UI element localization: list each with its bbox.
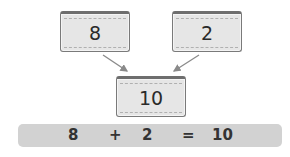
equation-result: 10 [212,126,233,144]
card-right: 2 [172,11,242,52]
card-left-value: 8 [61,14,129,51]
card-right-value: 2 [173,14,241,51]
arrow-left-to-result [103,55,127,71]
dashed-line [176,47,238,48]
dashed-line [120,112,182,113]
arrow-right-to-result [174,55,199,71]
card-left: 8 [60,11,130,52]
equation-plus: + [109,126,122,144]
card-result: 10 [116,76,186,117]
equation-operand-b: 2 [142,126,152,144]
equation-bar: 8 + 2 = 10 [18,124,282,147]
dashed-line [64,47,126,48]
card-result-value: 10 [117,79,185,116]
equation-operand-a: 8 [68,126,78,144]
equation-equals: = [182,126,195,144]
